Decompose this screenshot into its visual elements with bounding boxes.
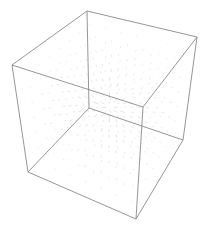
vector-arrow: [105, 98, 106, 100]
vector-arrow: [124, 82, 126, 84]
vector-arrow: [158, 93, 160, 94]
vector-arrow: [130, 145, 131, 147]
vector-arrow: [74, 125, 75, 126]
vector-arrow: [69, 159, 70, 161]
vector-arrow: [124, 121, 126, 123]
vector-arrow: [93, 72, 94, 75]
vector-arrow: [148, 132, 150, 133]
vector-arrow: [101, 144, 102, 147]
vector-arrow: [102, 78, 103, 82]
bounding-box: [12, 11, 197, 219]
vector-arrow: [91, 66, 92, 68]
vector-arrow: [91, 80, 92, 81]
vector-arrow: [76, 67, 78, 69]
vector-arrow: [129, 116, 132, 117]
vector-arrow: [64, 120, 66, 121]
vector-arrow: [84, 81, 86, 83]
vector-arrow: [52, 138, 54, 139]
vector-arrow: [150, 54, 151, 56]
vector-arrow: [131, 157, 132, 159]
vector-arrow: [120, 60, 121, 62]
vector-arrow: [86, 139, 88, 141]
vector-arrow: [46, 138, 48, 139]
vector-arrow: [96, 79, 97, 81]
vector-arrow: [138, 131, 140, 133]
vector-arrow: [123, 103, 126, 104]
vector-arrow: [70, 54, 71, 56]
vector-arrow: [77, 149, 78, 151]
vector-arrow: [96, 65, 97, 67]
vector-arrow: [159, 131, 160, 132]
vector-arrow: [126, 59, 127, 61]
vector-arrow: [66, 61, 67, 62]
vector-arrow: [146, 163, 147, 165]
vector-arrow: [134, 137, 135, 138]
box-edge: [136, 140, 183, 219]
vector-arrow: [134, 82, 135, 83]
vector-arrow: [110, 98, 111, 101]
vector-arrow: [117, 131, 118, 133]
vector-arrow: [37, 147, 38, 148]
vector-arrow: [65, 135, 66, 136]
vector-arrow: [105, 111, 106, 112]
vector-arrow: [161, 127, 163, 128]
vector-arrow: [93, 155, 94, 157]
box-edge: [12, 65, 143, 107]
vector-arrow: [138, 117, 141, 118]
vector-arrow: [68, 144, 70, 145]
vector-arrow: [124, 88, 126, 90]
vector-arrow: [165, 82, 167, 83]
vector-arrow: [69, 40, 70, 41]
vector-arrow: [114, 110, 118, 112]
vector-arrow: [68, 91, 71, 92]
vector-arrow: [133, 169, 134, 171]
box-edge: [87, 11, 197, 37]
vector-arrow: [152, 168, 153, 169]
vector-arrow: [133, 97, 135, 98]
vector-arrow: [146, 98, 148, 99]
vector-arrow: [63, 159, 64, 160]
vector-arrow: [155, 122, 157, 123]
vector-arrow: [88, 130, 89, 132]
vector-arrow: [83, 66, 84, 68]
vector-arrow: [151, 141, 152, 142]
vector-arrow: [72, 97, 74, 98]
vector-field-plot[interactable]: [0, 0, 205, 229]
vector-arrow: [80, 140, 81, 142]
vector-arrow: [48, 56, 49, 57]
vector-arrow: [61, 129, 63, 130]
vector-arrow: [94, 102, 99, 104]
vector-arrow: [85, 124, 88, 126]
vector-arrow: [61, 77, 63, 78]
vector-arrow: [70, 175, 71, 177]
vector-arrow: [172, 135, 173, 136]
vector-arrow: [118, 101, 119, 102]
vector-arrow: [166, 58, 167, 59]
vector-arrow: [152, 40, 153, 41]
vector-arrow: [181, 62, 182, 63]
vector-arrow: [74, 90, 76, 91]
vector-arrow: [88, 116, 90, 117]
vector-arrow: [167, 67, 168, 68]
vector-arrow: [145, 136, 147, 138]
vector-arrow: [48, 153, 49, 154]
vector-arrow: [142, 72, 143, 73]
vector-arrow: [127, 45, 128, 47]
vector-arrow: [91, 94, 92, 95]
vector-arrow: [83, 119, 85, 120]
vector-arrow: [78, 97, 81, 98]
vector-arrow: [60, 62, 62, 63]
vector-arrow: [131, 112, 134, 113]
vector-arrow: [154, 137, 156, 138]
vector-arrow: [175, 57, 176, 58]
vector-arrow: [85, 165, 86, 167]
vector-arrow: [90, 52, 91, 54]
vector-arrow: [147, 147, 148, 149]
vector-arrow: [80, 60, 81, 62]
vector-arrow: [35, 132, 37, 133]
vector-arrow: [70, 134, 72, 135]
vector-arrow: [56, 69, 57, 70]
vector-arrow: [138, 146, 139, 148]
vector-arrow: [134, 153, 135, 155]
vector-arrow: [119, 89, 120, 91]
